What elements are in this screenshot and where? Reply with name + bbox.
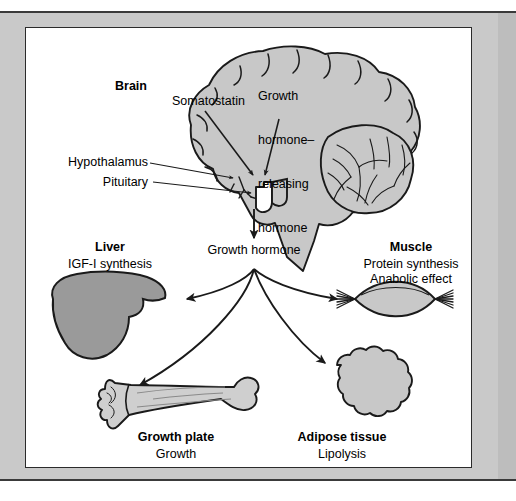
adipose-title: Adipose tissue — [298, 430, 387, 445]
liver-shape — [52, 272, 165, 359]
long-bone-shape — [98, 378, 259, 429]
muscle-shape — [337, 282, 453, 317]
ghrh-line-2: hormone– — [258, 133, 314, 148]
brain-title: Brain — [115, 79, 147, 94]
arrow-to-liver — [187, 269, 254, 299]
figure-mat-shadow — [498, 13, 516, 479]
hypothalamus-label: Hypothalamus — [68, 155, 148, 170]
cerebellum-shape — [321, 125, 413, 213]
pituitary-label: Pituitary — [103, 175, 148, 190]
bottom-rule — [0, 479, 516, 481]
gh-target-arrows — [140, 269, 337, 385]
muscle-effect-1: Protein synthesis — [363, 257, 458, 272]
muscle-title: Muscle — [390, 240, 432, 255]
ghrh-line-1: Growth — [258, 89, 314, 104]
somatostatin-label: Somatostatin — [172, 94, 245, 109]
figure-root: Brain Somatostatin Growth hormone– relea… — [0, 0, 516, 501]
ghrh-line-3: releasing — [258, 177, 314, 192]
muscle-effect-2: Anabolic effect — [370, 272, 452, 287]
growth-hormone-label: Growth hormone — [207, 243, 300, 258]
growth-plate-effect-1: Growth — [156, 447, 196, 462]
liver-effect-1: IGF-I synthesis — [68, 257, 152, 272]
growth-plate-title: Growth plate — [138, 430, 214, 445]
liver-title: Liver — [95, 240, 125, 255]
arrow-to-adipose — [254, 269, 325, 363]
ghrh-label: Growth hormone– releasing hormone — [258, 60, 314, 265]
ghrh-line-4: hormone — [258, 221, 314, 236]
adipose-shape — [337, 346, 412, 416]
adipose-effect-1: Lipolysis — [318, 447, 366, 462]
